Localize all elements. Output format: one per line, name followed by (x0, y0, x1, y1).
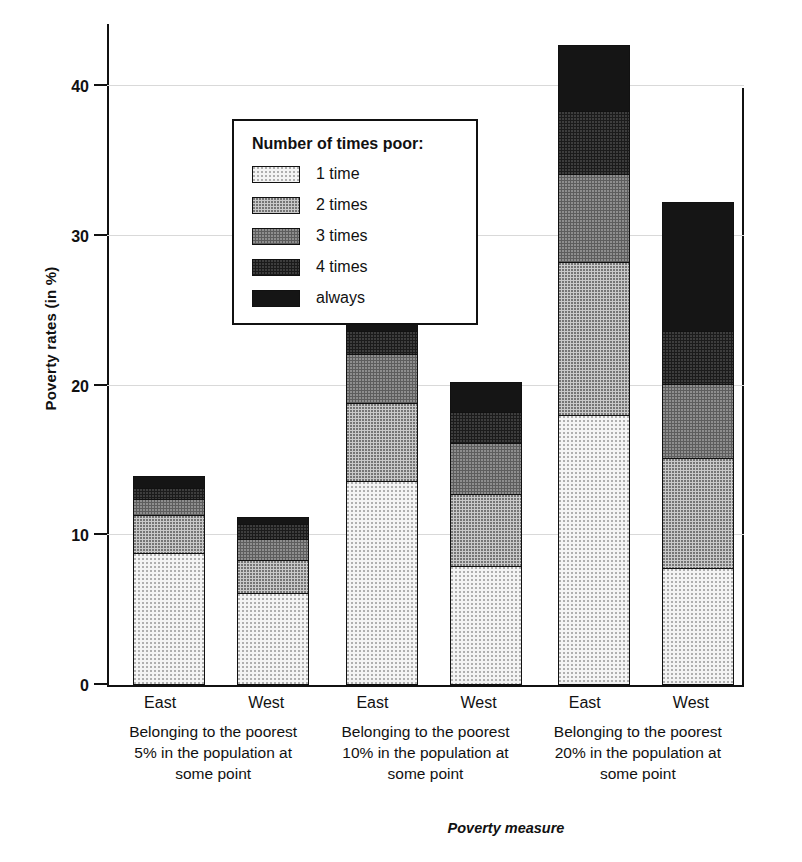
x-tick-label-east: East (532, 694, 638, 712)
legend-label-t1: 1 time (316, 165, 360, 183)
legend-label-t5: always (316, 289, 365, 307)
legend-item-t2[interactable]: 2 times (252, 196, 462, 214)
legend-label-t2: 2 times (316, 196, 368, 214)
bar-segment-t4 (238, 525, 308, 540)
y-axis-tick (94, 683, 107, 685)
x-group-20pct: EastWestBelonging to the poorest20% in t… (532, 694, 744, 784)
bar-segment-t4 (451, 413, 521, 444)
legend-swatch-t4 (252, 259, 300, 276)
legend-item-t3[interactable]: 3 times (252, 227, 462, 245)
y-axis-tick (94, 84, 107, 86)
x-tick-label-west: West (638, 694, 744, 712)
bar-segment-t5 (238, 518, 308, 525)
bar-5pct-east[interactable] (133, 476, 205, 685)
x-group-caption: Belonging to the poorest5% in the popula… (107, 721, 319, 784)
x-group-caption-line: some point (532, 763, 744, 784)
x-group-caption-line: 20% in the population at (532, 742, 744, 763)
bar-segment-t3 (347, 355, 417, 404)
bar-5pct-west[interactable] (237, 517, 309, 685)
x-tick-names: EastWest (532, 694, 744, 712)
legend: Number of times poor: 1 time2 times3 tim… (232, 119, 478, 325)
y-axis-tick (94, 533, 107, 535)
bar-segment-t5 (451, 383, 521, 413)
bar-segment-t2 (663, 459, 733, 568)
legend-item-t4[interactable]: 4 times (252, 258, 462, 276)
x-group-caption-line: 5% in the population at (107, 742, 319, 763)
x-group-caption-line: Belonging to the poorest (319, 721, 531, 742)
x-tick-label-west: West (425, 694, 531, 712)
x-group-caption-line: Belonging to the poorest (532, 721, 744, 742)
x-tick-label-east: East (319, 694, 425, 712)
legend-item-t1[interactable]: 1 time (252, 165, 462, 183)
bar-segment-t3 (663, 385, 733, 460)
bar-20pct-west[interactable] (662, 202, 734, 685)
bar-segment-t3 (238, 540, 308, 561)
y-axis-tick-label: 10 (71, 527, 89, 545)
bar-segment-t4 (347, 332, 417, 354)
legend-swatch-t1 (252, 166, 300, 183)
y-axis-tick (94, 234, 107, 236)
bar-segment-t1 (559, 416, 629, 684)
x-group-caption-line: some point (319, 763, 531, 784)
bar-10pct-west[interactable] (450, 382, 522, 685)
bar-segment-t1 (134, 554, 204, 684)
y-axis-tick-label: 20 (71, 378, 89, 396)
gridline (107, 385, 744, 386)
bar-segment-t2 (347, 404, 417, 482)
x-group-5pct: EastWestBelonging to the poorest5% in th… (107, 694, 319, 784)
x-group-10pct: EastWestBelonging to the poorest10% in t… (319, 694, 531, 784)
bar-segment-t3 (451, 444, 521, 495)
y-axis-title: Poverty rates (in %) (42, 229, 59, 449)
x-group-caption-line: Belonging to the poorest (107, 721, 319, 742)
legend-swatch-t3 (252, 228, 300, 245)
bar-segment-t2 (238, 561, 308, 594)
bar-segment-t4 (663, 332, 733, 384)
bar-segment-t5 (559, 46, 629, 112)
legend-swatch-t2 (252, 197, 300, 214)
bar-segment-t3 (559, 175, 629, 263)
x-group-caption: Belonging to the poorest10% in the popul… (319, 721, 531, 784)
x-axis-group-labels: EastWestBelonging to the poorest5% in th… (107, 694, 744, 824)
y-axis-tick (94, 384, 107, 386)
bar-segment-t5 (134, 477, 204, 489)
x-tick-names: EastWest (107, 694, 319, 712)
x-axis-line (107, 685, 744, 687)
bar-segment-t2 (559, 263, 629, 416)
legend-swatch-t5 (252, 290, 300, 307)
bar-20pct-east[interactable] (558, 45, 630, 685)
legend-label-t4: 4 times (316, 258, 368, 276)
bar-segment-t5 (663, 203, 733, 332)
x-tick-names: EastWest (319, 694, 531, 712)
bar-segment-t2 (451, 495, 521, 567)
bar-segment-t1 (347, 482, 417, 684)
bar-segment-t3 (134, 500, 204, 516)
bar-segment-t4 (559, 112, 629, 175)
chart-root: Poverty rates (in %) 010203040 Number of… (0, 0, 802, 862)
x-group-caption: Belonging to the poorest20% in the popul… (532, 721, 744, 784)
bar-segment-t1 (238, 594, 308, 684)
y-axis-tick-label: 0 (80, 677, 89, 695)
x-group-caption-line: some point (107, 763, 319, 784)
x-axis-title: Poverty measure (0, 820, 802, 836)
bar-segment-t1 (451, 567, 521, 684)
bar-segment-t2 (134, 516, 204, 553)
legend-item-t5[interactable]: always (252, 289, 462, 307)
bar-10pct-east[interactable] (346, 315, 418, 685)
legend-label-t3: 3 times (316, 227, 368, 245)
y-axis-tick-label: 30 (71, 228, 89, 246)
bar-segment-t1 (663, 569, 733, 684)
x-tick-label-west: West (213, 694, 319, 712)
y-axis-right-line (742, 88, 744, 687)
legend-rows: 1 time2 times3 times4 timesalways (248, 165, 462, 307)
y-axis-tick-label: 40 (71, 78, 89, 96)
bar-segment-t4 (134, 489, 204, 499)
x-group-caption-line: 10% in the population at (319, 742, 531, 763)
gridline (107, 85, 744, 86)
x-tick-label-east: East (107, 694, 213, 712)
y-axis-line (107, 24, 109, 687)
plot-area: 010203040 Number of times poor: 1 time2 … (107, 24, 744, 687)
legend-title: Number of times poor: (252, 135, 462, 153)
